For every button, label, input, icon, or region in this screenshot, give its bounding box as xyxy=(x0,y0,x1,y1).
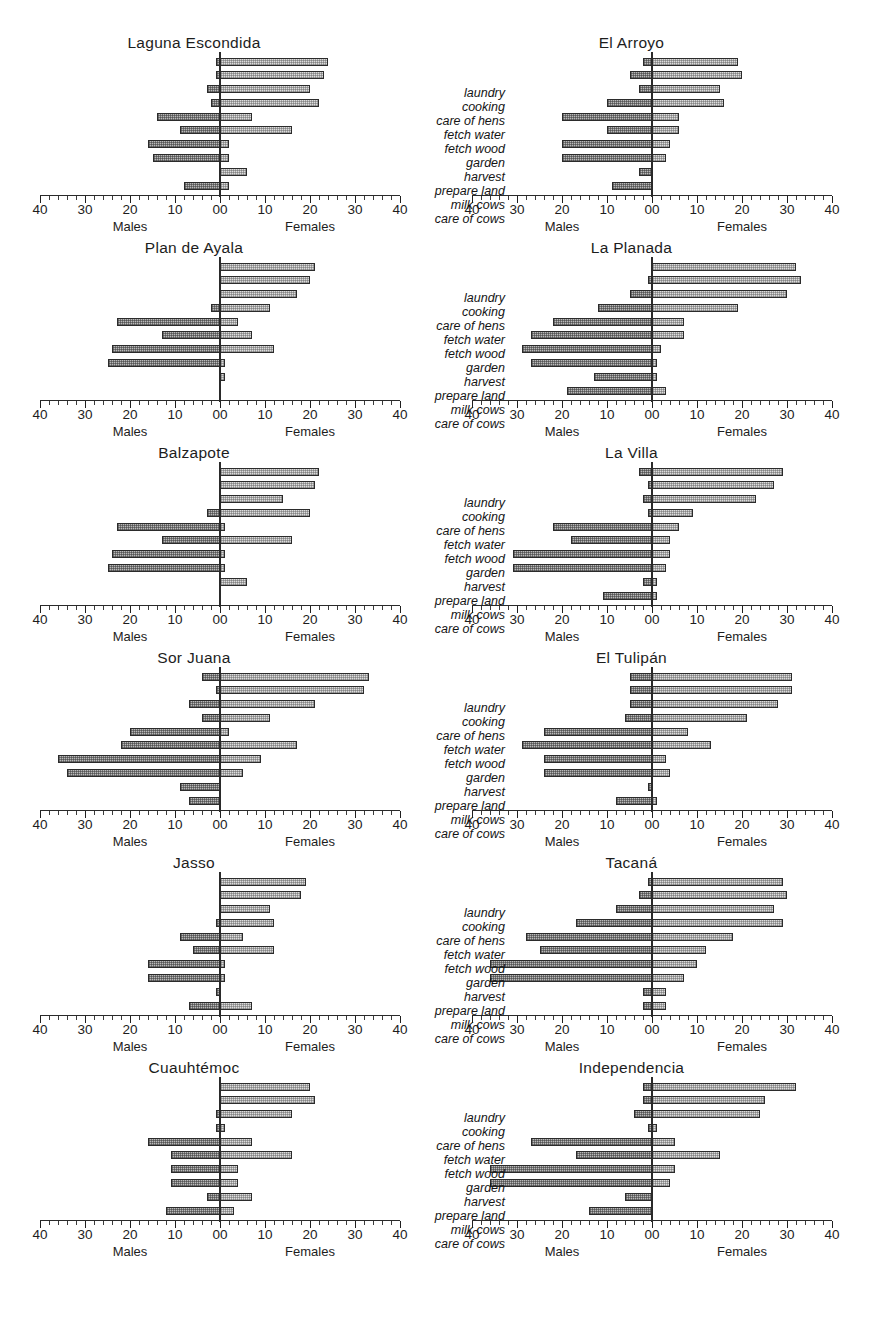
axis-tick-minor xyxy=(616,196,617,200)
bar-male xyxy=(634,1110,652,1118)
axis-tick-minor xyxy=(49,401,50,405)
x-tick-label: 30 xyxy=(347,1227,362,1242)
axis-tick-minor xyxy=(148,811,149,815)
task-label: harvest xyxy=(375,1195,505,1209)
x-tick-label: 00 xyxy=(212,1022,227,1037)
x-tick-label: 20 xyxy=(554,202,569,217)
x-tick-label: 10 xyxy=(167,817,182,832)
bar-female xyxy=(220,728,229,736)
axis-tick-minor xyxy=(589,401,590,405)
axis-tick-minor xyxy=(346,606,347,610)
axis-tick-minor xyxy=(508,401,509,405)
bar-male xyxy=(148,974,220,982)
chart-panel: Balzapote403020100010203040MalesFemales xyxy=(0,440,436,645)
x-tick-label: 10 xyxy=(167,1022,182,1037)
x-tick-label: 20 xyxy=(302,202,317,217)
axis-tick-minor xyxy=(274,606,275,610)
bar-female xyxy=(652,331,684,339)
axis-tick-minor xyxy=(364,606,365,610)
axis-tick-minor xyxy=(733,811,734,815)
axis-tick-minor xyxy=(157,196,158,200)
axis-tick-minor xyxy=(688,1016,689,1020)
x-tick-label: 00 xyxy=(644,612,659,627)
axis-tick-minor xyxy=(625,1221,626,1225)
bar-female xyxy=(652,988,666,996)
axis-tick-minor xyxy=(256,196,257,200)
task-label: fetch water xyxy=(375,948,505,962)
bar-female xyxy=(220,468,319,476)
bar-male xyxy=(522,741,653,749)
bar-male xyxy=(171,1179,221,1187)
axis-tick-minor xyxy=(580,401,581,405)
axis-side-labels: MalesFemales xyxy=(40,424,400,440)
task-label: prepare land xyxy=(375,389,505,403)
axis-tick-minor xyxy=(247,1016,248,1020)
bar-female xyxy=(220,495,283,503)
bar-female xyxy=(652,387,666,395)
chart-panel: Laguna Escondida403020100010203040MalesF… xyxy=(0,30,436,235)
axis-tick-minor xyxy=(751,401,752,405)
axis-label-males: Males xyxy=(545,424,580,439)
axis-tick-minor xyxy=(535,1221,536,1225)
bar-male xyxy=(562,154,652,162)
axis-tick-minor xyxy=(166,1221,167,1225)
axis-tick-minor xyxy=(679,606,680,610)
bar-male xyxy=(180,126,221,134)
x-tick-label: 10 xyxy=(689,202,704,217)
axis-tick-minor xyxy=(625,811,626,815)
plot-area xyxy=(40,261,400,401)
axis-tick-minor xyxy=(274,1016,275,1020)
axis-tick-minor xyxy=(148,401,149,405)
axis-tick-minor xyxy=(112,196,113,200)
axis-tick-minor xyxy=(814,196,815,200)
axis-tick-minor xyxy=(121,1016,122,1020)
axis-tick-minor xyxy=(139,401,140,405)
x-tick-label: 30 xyxy=(77,817,92,832)
task-label: fetch wood xyxy=(375,552,505,566)
axis-tick-minor xyxy=(679,811,680,815)
axis-label-females: Females xyxy=(285,219,335,234)
bar-male xyxy=(598,304,652,312)
axis-tick-minor xyxy=(202,811,203,815)
x-tick-label: 30 xyxy=(509,612,524,627)
axis-tick-minor xyxy=(634,1221,635,1225)
axis-tick-minor xyxy=(184,811,185,815)
axis-tick-minor xyxy=(139,1221,140,1225)
axis-tick-minor xyxy=(283,196,284,200)
x-tick-labels: 403020100010203040 xyxy=(472,1022,832,1038)
axis-tick-minor xyxy=(598,811,599,815)
axis-tick-minor xyxy=(319,1221,320,1225)
bar-female xyxy=(652,154,666,162)
x-tick-label: 20 xyxy=(734,202,749,217)
axis-side-labels: MalesFemales xyxy=(472,834,832,850)
bar-male xyxy=(148,960,220,968)
axis-tick-minor xyxy=(157,1016,158,1020)
axis-tick-minor xyxy=(544,606,545,610)
plot-area xyxy=(472,671,832,811)
x-tick-label: 30 xyxy=(509,1227,524,1242)
axis-tick-minor xyxy=(760,606,761,610)
task-label: garden xyxy=(375,361,505,375)
bar-male xyxy=(531,359,653,367)
axis-tick-minor xyxy=(211,1221,212,1225)
axis-tick-minor xyxy=(364,811,365,815)
bar-male xyxy=(531,331,653,339)
axis-tick-minor xyxy=(346,1016,347,1020)
axis-tick-minor xyxy=(805,811,806,815)
axis-tick-minor xyxy=(193,196,194,200)
axis-tick-minor xyxy=(58,1221,59,1225)
bar-male xyxy=(544,769,652,777)
axis-tick-minor xyxy=(589,811,590,815)
center-axis-line xyxy=(651,872,653,1017)
axis-tick-minor xyxy=(661,1221,662,1225)
task-label: laundry xyxy=(375,1111,505,1125)
bar-male xyxy=(562,140,652,148)
axis-tick-minor xyxy=(211,196,212,200)
axis-tick-minor xyxy=(796,1221,797,1225)
task-label-column: laundrycookingcare of hensfetch waterfet… xyxy=(375,496,505,636)
bar-male xyxy=(184,182,220,190)
axis-tick-minor xyxy=(769,196,770,200)
axis-tick-minor xyxy=(337,1016,338,1020)
center-axis-line xyxy=(219,257,221,402)
axis-tick-minor xyxy=(670,401,671,405)
